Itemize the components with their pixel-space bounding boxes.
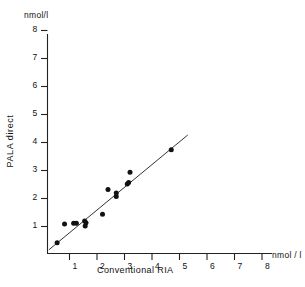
data-point xyxy=(62,222,67,227)
x-tick-label: 1 xyxy=(73,261,78,271)
y-axis xyxy=(41,31,48,254)
data-point xyxy=(74,221,79,226)
data-point xyxy=(106,187,111,192)
data-point xyxy=(100,212,105,217)
x-tick-label: 8 xyxy=(265,261,270,271)
y-tick-label: 7 xyxy=(33,52,38,62)
y-tick-label: 1 xyxy=(33,220,38,230)
scatter-plot-figure: nmol/l nmol / l Conventional RIA PALA di… xyxy=(0,0,305,287)
x-tick-label: 7 xyxy=(238,261,243,271)
plot-canvas xyxy=(0,0,305,287)
x-axis-ticks xyxy=(70,254,263,261)
y-tick-label: 6 xyxy=(33,80,38,90)
y-tick-label: 3 xyxy=(33,164,38,174)
data-point xyxy=(128,170,133,175)
x-tick-label: 4 xyxy=(155,261,160,271)
data-point xyxy=(169,147,174,152)
x-tick-label: 6 xyxy=(210,261,215,271)
y-axis-unit-label: nmol/l xyxy=(24,10,48,20)
x-tick-label: 5 xyxy=(183,261,188,271)
y-tick-label: 2 xyxy=(33,192,38,202)
y-tick-label: 4 xyxy=(33,136,38,146)
x-tick-label: 2 xyxy=(100,261,105,271)
data-point xyxy=(114,190,119,195)
y-axis-ticks xyxy=(41,31,48,227)
x-axis-title: Conventional RIA xyxy=(97,265,173,275)
data-point xyxy=(84,220,89,225)
x-tick-label: 3 xyxy=(128,261,133,271)
y-tick-label: 5 xyxy=(33,108,38,118)
y-tick-label: 8 xyxy=(33,24,38,34)
data-point xyxy=(126,180,131,185)
x-axis xyxy=(47,254,272,261)
data-point xyxy=(55,240,60,245)
y-axis-title: PALA direct xyxy=(5,115,15,168)
x-axis-unit-label: nmol / l xyxy=(272,250,302,260)
